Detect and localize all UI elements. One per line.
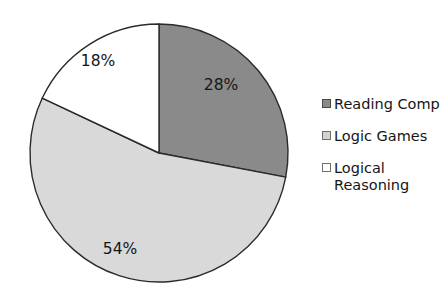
chart-legend: Reading Comp Logic Games Logical Reasoni…: [322, 96, 448, 194]
legend-label-reading-comp: Reading Comp: [334, 96, 440, 113]
legend-item-logic-games[interactable]: Logic Games: [322, 128, 448, 145]
legend-label-logic-games: Logic Games: [334, 128, 427, 145]
pie-slice-reading-comp[interactable]: [159, 24, 288, 177]
legend-label-logical-reasoning: Logical Reasoning: [334, 160, 409, 194]
pie-chart-figure: 28%54%18% Reading Comp Logic Games Logic…: [0, 0, 448, 304]
pie-slice-value-label: 54%: [103, 240, 137, 258]
legend-swatch-icon-logical-reasoning: [322, 163, 331, 172]
legend-swatch-icon-reading-comp: [322, 99, 331, 108]
legend-swatch-icon-logic-games: [322, 131, 331, 140]
pie-chart-canvas: 28%54%18%: [0, 0, 320, 304]
pie-slice-value-label: 28%: [204, 76, 238, 94]
legend-item-logical-reasoning[interactable]: Logical Reasoning: [322, 160, 448, 194]
pie-slice-value-label: 18%: [81, 52, 115, 70]
legend-item-reading-comp[interactable]: Reading Comp: [322, 96, 448, 113]
pie-slice-group: [30, 24, 288, 282]
